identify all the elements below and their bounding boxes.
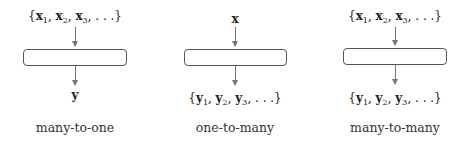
caption: one-to-many <box>160 120 310 135</box>
ellipsis: , . . . <box>88 9 115 23</box>
output-sequence: {y1, y2, y3, . . .} <box>320 91 470 110</box>
ellipsis: , . . . <box>407 91 434 105</box>
output-sequence: {y1, y2, y3, . . .} <box>160 91 310 110</box>
output-single: y <box>0 88 150 102</box>
model-box <box>184 49 287 66</box>
subscript: 2 <box>223 98 228 107</box>
arrow-down-icon <box>235 66 236 85</box>
caption: many-to-many <box>320 120 470 135</box>
panel-many-to-one: {x1, x2, x3, . . .} y many-to-one <box>0 0 150 152</box>
var: x <box>75 9 82 23</box>
model-box <box>343 48 447 65</box>
subscript: 2 <box>383 16 388 25</box>
brace-open: { <box>188 91 196 105</box>
ellipsis: , . . . <box>408 9 435 23</box>
brace-close: } <box>274 91 282 105</box>
input-sequence: {x1, x2, x3, . . .} <box>0 9 150 28</box>
var: y <box>376 91 383 105</box>
arrow-down-icon <box>395 65 396 84</box>
panel-one-to-many: x {y1, y2, y3, . . .} one-to-many <box>160 0 310 152</box>
ellipsis: , . . . <box>247 91 274 105</box>
var: y <box>216 91 223 105</box>
panel-many-to-many: {x1, x2, x3, . . .} {y1, y2, y3, . . .} … <box>320 0 470 152</box>
arrow-down-icon <box>235 27 236 46</box>
var: y <box>72 88 79 102</box>
var: x <box>356 9 363 23</box>
var: x <box>36 9 43 23</box>
arrow-down-icon <box>75 27 76 46</box>
brace-open: { <box>28 9 36 23</box>
input-single: x <box>160 12 310 26</box>
arrow-down-icon <box>395 27 396 45</box>
arrow-down-icon <box>75 66 76 85</box>
var: y <box>196 91 203 105</box>
brace-close: } <box>434 91 442 105</box>
var: x <box>231 12 238 26</box>
subscript: 1 <box>43 16 48 25</box>
subscript: 1 <box>363 98 368 107</box>
brace-open: { <box>348 91 356 105</box>
input-sequence: {x1, x2, x3, . . .} <box>320 9 470 28</box>
subscript: 2 <box>383 98 388 107</box>
subscript: 1 <box>363 16 368 25</box>
var: x <box>56 9 63 23</box>
var: y <box>356 91 363 105</box>
caption: many-to-one <box>0 120 150 135</box>
brace-open: { <box>348 9 356 23</box>
var: x <box>376 9 383 23</box>
var: x <box>395 9 402 23</box>
subscript: 2 <box>63 16 68 25</box>
brace-close: } <box>434 9 442 23</box>
model-box <box>23 49 127 66</box>
brace-close: } <box>114 9 122 23</box>
subscript: 1 <box>203 98 208 107</box>
